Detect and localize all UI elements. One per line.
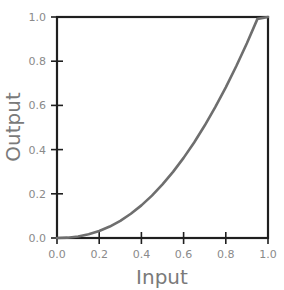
plot-canvas: 0.0 0.2 0.4 0.6 0.8 1.0 0.0 0.2 0.4 0.6 … <box>0 0 284 290</box>
y-axis-title: Output <box>1 92 25 162</box>
y-tick-label: 0.0 <box>29 232 47 245</box>
x-tick-label: 1.0 <box>259 248 277 261</box>
x-tick-label: 0.8 <box>217 248 235 261</box>
y-tick-label: 1.0 <box>29 11 47 24</box>
plot-frame <box>57 17 268 238</box>
y-tick-label: 0.8 <box>29 55 47 68</box>
x-axis-title: Input <box>136 265 188 289</box>
x-tick-label: 0.0 <box>48 248 66 261</box>
x-tick-label: 0.2 <box>90 248 108 261</box>
y-tick-label: 0.6 <box>29 99 47 112</box>
data-curve <box>57 17 268 238</box>
chart-figure: 0.0 0.2 0.4 0.6 0.8 1.0 0.0 0.2 0.4 0.6 … <box>0 0 284 290</box>
x-tick-label: 0.4 <box>133 248 151 261</box>
x-tick-label: 0.6 <box>175 248 193 261</box>
y-tick-label: 0.2 <box>29 188 47 201</box>
y-tick-labels: 0.0 0.2 0.4 0.6 0.8 1.0 <box>29 11 47 245</box>
y-tick-label: 0.4 <box>29 144 47 157</box>
x-tick-labels: 0.0 0.2 0.4 0.6 0.8 1.0 <box>48 248 277 261</box>
